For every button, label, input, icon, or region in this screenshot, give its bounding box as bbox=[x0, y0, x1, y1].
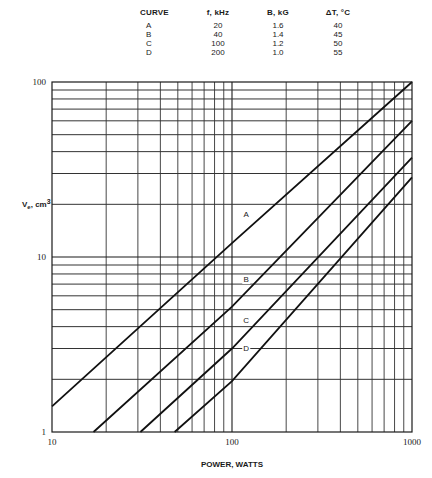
tick-labels: 101001000110100 bbox=[33, 77, 422, 447]
curve-label-c: C bbox=[243, 316, 249, 325]
y-axis-label: Ve, cm3 bbox=[22, 198, 51, 210]
x-tick-label: 10 bbox=[48, 437, 58, 447]
curve-label-d: D bbox=[243, 344, 249, 353]
y-tick-label: 100 bbox=[33, 77, 47, 87]
x-axis-label: POWER, WATTS bbox=[201, 460, 264, 469]
x-tick-label: 100 bbox=[225, 437, 239, 447]
curve-d bbox=[175, 177, 412, 432]
log-log-chart: ABCD 101001000110100 Ve, cm3 POWER, WATT… bbox=[0, 0, 432, 478]
curve-label-b: B bbox=[244, 275, 249, 284]
x-tick-label: 1000 bbox=[403, 437, 422, 447]
grid-lines bbox=[52, 82, 412, 432]
curve-b bbox=[94, 121, 413, 432]
y-tick-label: 10 bbox=[37, 252, 47, 262]
y-tick-label: 1 bbox=[42, 427, 47, 437]
curve-c bbox=[140, 158, 412, 432]
curve-label-a: A bbox=[244, 210, 250, 219]
